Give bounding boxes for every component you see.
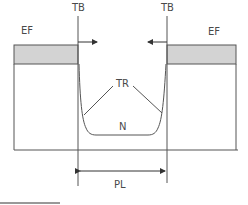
ef-right-label: EF: [208, 27, 220, 37]
tb-left-label: TB: [72, 3, 85, 13]
pl-label: PL: [114, 180, 126, 190]
left-shaded-band: [14, 45, 78, 64]
n-label: N: [119, 122, 126, 132]
ef-left-label: EF: [21, 26, 33, 36]
right-shaded-band: [167, 45, 236, 64]
left-field-block: [14, 45, 78, 150]
tr-leader-right: [133, 86, 162, 113]
tr-label: TR: [116, 79, 129, 89]
tr-leader-left: [84, 86, 113, 115]
tb-right-label: TB: [161, 3, 174, 13]
right-field-block: [167, 45, 236, 150]
